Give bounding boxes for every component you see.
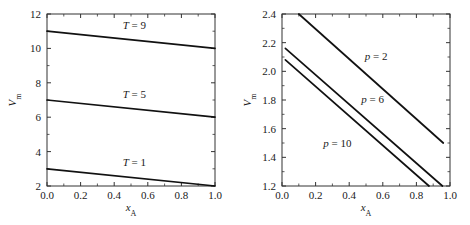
figure-two-panel-plot: 0.00.20.40.60.81.024681012 T = 9T = 5T =… [0,0,470,225]
y-tick-label: 2.4 [262,8,276,20]
x-tick-label: 0.4 [342,189,356,201]
y-tick-label: 1.2 [262,180,276,192]
axis-tick-labels: 0.00.20.40.60.81.01.21.41.61.82.02.22.4 [262,8,457,201]
y-tick-label: 12 [30,8,41,20]
x-axis-label-text: xA [125,201,137,218]
series-line [47,169,215,186]
y-tick-label: 1.8 [262,94,276,106]
y-axis-label: Vm [6,93,23,107]
x-tick-label: 0.6 [376,189,390,201]
chart-panel-right: 0.00.20.40.60.81.01.21.41.61.82.02.22.4 … [235,0,470,225]
series-annotation: T = 1 [123,156,146,168]
series-annotation: T = 9 [123,19,147,31]
series-line [285,48,442,186]
x-tick-label: 1.0 [443,189,457,201]
series-line [47,100,215,117]
y-tick-label: 1.4 [262,151,276,163]
series-annotation: p = 6 [360,93,384,105]
series-annotation: p = 10 [322,137,352,149]
y-axis-label-text: Vm [241,93,258,107]
series-line [47,31,215,48]
x-tick-label: 0.2 [309,189,323,201]
y-axis-label-text: Vm [6,93,23,107]
y-tick-label: 2.2 [262,37,276,49]
x-axis-label: xA [125,201,137,218]
y-axis-label: Vm [241,93,258,107]
y-tick-label: 4 [36,146,42,158]
y-tick-label: 6 [36,111,42,123]
chart-svg-left: 0.00.20.40.60.81.024681012 T = 9T = 5T =… [0,0,235,225]
x-tick-label: 0.0 [40,189,54,201]
axis-tick-labels: 0.00.20.40.60.81.024681012 [30,8,222,201]
x-axis-label-text: xA [360,201,372,218]
y-tick-label: 2.0 [262,65,276,77]
y-tick-label: 8 [36,77,42,89]
x-tick-label: 1.0 [208,189,222,201]
y-tick-label: 1.6 [262,123,276,135]
series-line [285,60,429,186]
series-annotation: p = 2 [364,50,388,62]
x-tick-label: 0.8 [175,189,189,201]
x-axis-label: xA [360,201,372,218]
x-tick-label: 0.0 [275,189,289,201]
series-annotation: T = 5 [123,88,147,100]
x-tick-label: 0.8 [410,189,424,201]
chart-panel-left: 0.00.20.40.60.81.024681012 T = 9T = 5T =… [0,0,235,225]
chart-svg-right: 0.00.20.40.60.81.01.21.41.61.82.02.22.4 … [235,0,470,225]
x-tick-label: 0.2 [74,189,88,201]
x-tick-label: 0.6 [141,189,155,201]
y-tick-label: 2 [36,180,42,192]
y-tick-label: 10 [30,42,42,54]
x-tick-label: 0.4 [107,189,121,201]
